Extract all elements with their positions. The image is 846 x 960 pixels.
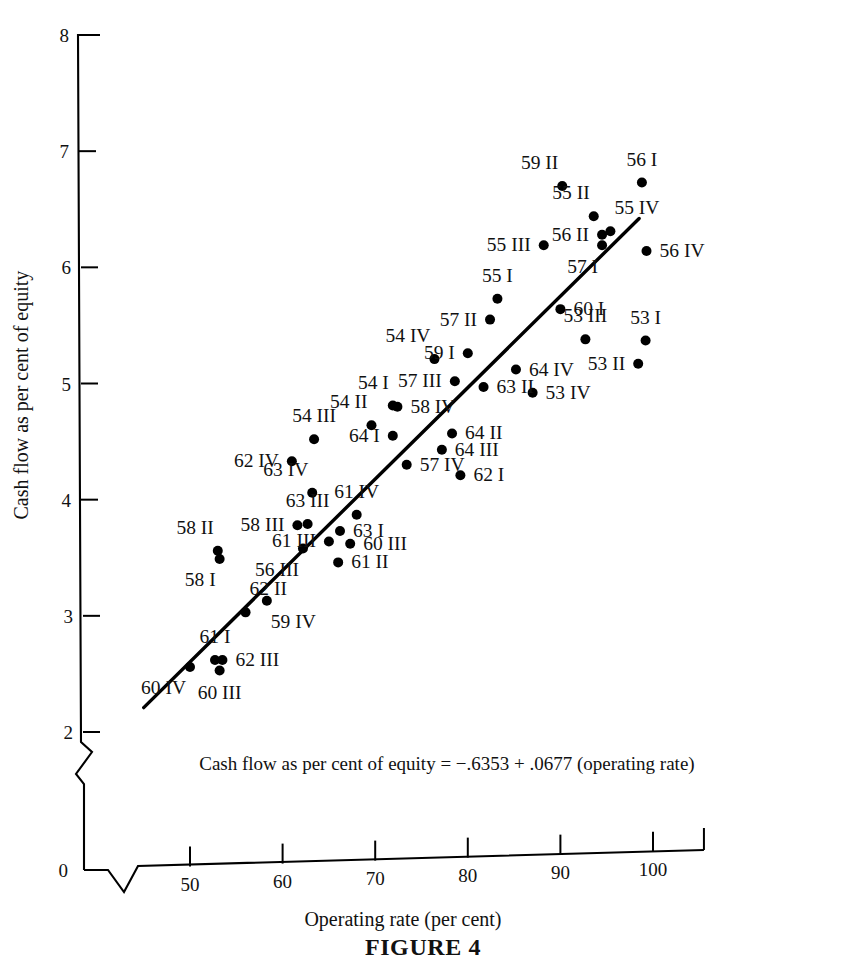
data-point	[539, 240, 549, 250]
data-point-label: 56 II	[552, 224, 589, 245]
data-point-label: 63 III	[286, 490, 330, 511]
data-point-label: 54 I	[358, 372, 389, 393]
data-point	[324, 536, 334, 546]
scatter-plot: 234567805060708090100 59 II56 I55 II55 I…	[0, 0, 846, 960]
x-axis-tick-label: 80	[458, 865, 477, 886]
data-point-label: 60 IV	[141, 677, 186, 698]
data-point	[589, 211, 599, 221]
x-axis-tick-label: 90	[551, 862, 570, 883]
data-point-label: 61 II	[351, 551, 388, 572]
data-point-label: 62 II	[250, 578, 287, 599]
y-axis-title: Cash flow as per cent of equity	[10, 271, 33, 520]
x-axis-tick-label: 50	[181, 874, 200, 895]
data-point	[215, 554, 225, 564]
data-point	[597, 240, 607, 250]
data-point	[580, 334, 590, 344]
data-point	[185, 662, 195, 672]
data-point-label: 56 I	[626, 149, 657, 170]
data-point	[215, 665, 225, 675]
x-axis-tick-label: 60	[273, 871, 292, 892]
data-point	[641, 336, 651, 346]
data-point	[492, 294, 502, 304]
data-point-label: 62 III	[235, 649, 279, 670]
data-point-label: 59 I	[424, 342, 455, 363]
data-point-label: 53 II	[588, 353, 625, 374]
data-point-label: 56 III	[255, 559, 299, 580]
x-axis-tick-label: 100	[639, 859, 668, 880]
data-point-label: 54 III	[292, 405, 336, 426]
data-point	[241, 607, 251, 617]
data-point-label: 63 II	[497, 376, 534, 397]
y-axis-tick-label: 8	[60, 25, 70, 46]
data-point	[511, 365, 521, 375]
data-point-label: 53 IV	[546, 382, 591, 403]
y-axis-tick-label: 5	[62, 374, 72, 395]
data-point	[637, 178, 647, 188]
point-labels-group: 59 II56 I55 II55 IV56 II57 I55 III56 IV5…	[141, 149, 704, 703]
data-point	[392, 402, 402, 412]
data-point	[352, 510, 362, 520]
data-point	[217, 655, 227, 665]
data-point-label: 55 I	[482, 265, 513, 286]
regression-equation-annotation: Cash flow as per cent of equity = −.6353…	[199, 753, 694, 775]
data-point	[597, 230, 607, 240]
data-point-label: 64 I	[349, 425, 380, 446]
data-point-label: 53 I	[630, 307, 661, 328]
x-axis-title: Operating rate (per cent)	[304, 908, 501, 931]
data-point-label: 58 II	[176, 517, 213, 538]
data-point	[447, 428, 457, 438]
data-point	[388, 431, 398, 441]
figure-container: 234567805060708090100 59 II56 I55 II55 I…	[0, 0, 846, 960]
data-point	[463, 348, 473, 358]
data-point-label: 55 II	[552, 182, 589, 203]
data-point-label: 56 IV	[660, 240, 705, 261]
data-point	[402, 460, 412, 470]
y-axis-line	[76, 35, 100, 870]
data-point-label: 61 III	[272, 530, 316, 551]
y-axis-tick-label: 3	[64, 606, 74, 627]
data-point-label: 58 IV	[410, 396, 455, 417]
data-point-label: 61 I	[200, 626, 231, 647]
data-point-label: 53 III	[563, 305, 607, 326]
y-axis-tick-label: 4	[62, 490, 72, 511]
data-point-label: 57 IV	[420, 454, 465, 475]
data-point-label: 59 IV	[271, 611, 316, 632]
data-point	[335, 526, 345, 536]
x-axis-line	[84, 850, 704, 892]
y-axis-tick-label: 2	[64, 722, 74, 743]
data-point-label: 57 III	[398, 370, 442, 391]
x-axis-tick-label: 70	[366, 868, 385, 889]
data-point	[485, 315, 495, 325]
data-point-label: 57 II	[440, 309, 477, 330]
data-point-label: 57 I	[567, 256, 598, 277]
axis-titles-group: Cash flow as per cent of equityOperating…	[10, 271, 695, 960]
data-point	[303, 519, 313, 529]
figure-caption: FIGURE 4	[365, 934, 481, 960]
data-point	[642, 246, 652, 256]
data-point	[633, 359, 643, 369]
data-point-label: 61 IV	[334, 481, 379, 502]
data-point-label: 55 IV	[614, 197, 659, 218]
data-point-label: 64 IV	[529, 359, 574, 380]
data-point-label: 59 II	[521, 152, 558, 173]
y-axis-tick-label: 6	[62, 257, 72, 278]
y-axis-tick-label: 0	[59, 860, 69, 881]
data-point-label: 63 IV	[263, 459, 308, 480]
data-point-label: 58 I	[185, 569, 216, 590]
data-point	[333, 557, 343, 567]
data-point	[450, 376, 460, 386]
data-point-label: 55 III	[487, 234, 531, 255]
data-points-group	[185, 178, 652, 676]
y-axis-tick-label: 7	[60, 141, 70, 162]
data-point-label: 60 III	[198, 682, 242, 703]
data-point	[309, 434, 319, 444]
data-point	[479, 382, 489, 392]
data-point	[292, 520, 302, 530]
data-point-label: 62 I	[473, 464, 504, 485]
